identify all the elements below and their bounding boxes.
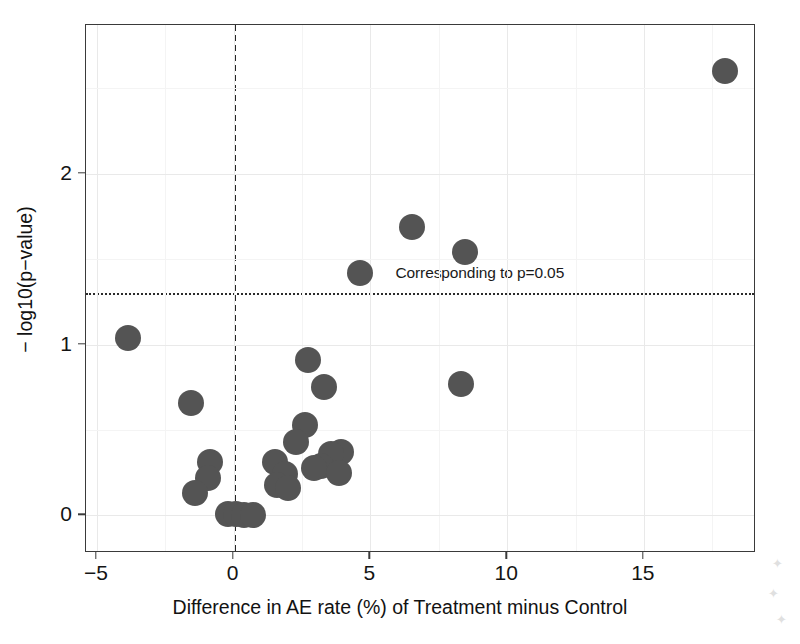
data-point — [326, 460, 352, 486]
data-point — [240, 502, 266, 528]
data-point — [178, 390, 204, 416]
significance-threshold-annotation: Corresponding to p=0.05 — [392, 264, 567, 282]
scan-artifact: ✦ — [768, 586, 779, 601]
x-axis-tick-label: −5 — [84, 561, 108, 585]
data-point — [452, 239, 478, 265]
y-axis-tick-label: 1 — [60, 332, 72, 356]
volcano-plot-figure: Corresponding to p=0.05 Difference in AE… — [0, 0, 800, 644]
y-axis-tick-label: 0 — [60, 502, 72, 526]
x-axis-tick — [232, 552, 233, 559]
gridline-vertical — [644, 25, 645, 551]
y-axis-tick — [78, 172, 85, 173]
y-axis-label: − log10(p−value) — [14, 80, 37, 480]
gridline-vertical-minor — [576, 25, 577, 551]
x-axis-tick — [505, 552, 506, 559]
significance-threshold-line — [86, 293, 754, 295]
data-point — [295, 347, 321, 373]
plot-area: Corresponding to p=0.05 — [85, 24, 755, 552]
y-axis-tick — [78, 514, 85, 515]
data-point — [448, 371, 474, 397]
y-axis-tick-label: 2 — [60, 161, 72, 185]
x-axis-label: Difference in AE rate (%) of Treatment m… — [0, 596, 800, 619]
gridline-vertical — [234, 25, 235, 551]
data-point — [712, 58, 738, 84]
data-point — [275, 475, 301, 501]
x-axis-tick — [642, 552, 643, 559]
data-point — [311, 374, 337, 400]
scan-artifact: ✦ — [776, 612, 787, 627]
gridline-horizontal-minor — [86, 88, 754, 89]
gridline-vertical-minor — [165, 25, 166, 551]
gridline-vertical — [507, 25, 508, 551]
x-axis-tick-label: 15 — [631, 561, 654, 585]
data-point — [182, 480, 208, 506]
x-axis-tick-label: 5 — [364, 561, 376, 585]
gridline-vertical — [97, 25, 98, 551]
data-point — [115, 325, 141, 351]
data-point — [347, 260, 373, 286]
x-axis-tick-label: 10 — [494, 561, 517, 585]
gridline-vertical-minor — [712, 25, 713, 551]
x-axis-tick — [369, 552, 370, 559]
y-axis-tick — [78, 343, 85, 344]
x-axis-tick-label: 0 — [227, 561, 239, 585]
gridline-horizontal — [86, 345, 754, 346]
gridline-horizontal-minor — [86, 430, 754, 431]
data-point — [301, 455, 327, 481]
data-point — [283, 429, 309, 455]
gridline-horizontal-minor — [86, 259, 754, 260]
gridline-vertical-minor — [439, 25, 440, 551]
gridline-horizontal — [86, 174, 754, 175]
x-axis-tick — [95, 552, 96, 559]
gridline-vertical — [370, 25, 371, 551]
gridline-horizontal — [86, 515, 754, 516]
data-point — [399, 214, 425, 240]
scan-artifact: ✦ — [772, 556, 783, 571]
